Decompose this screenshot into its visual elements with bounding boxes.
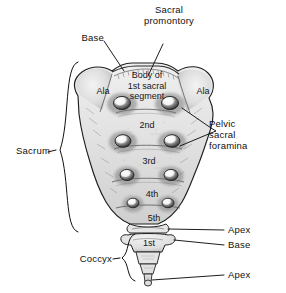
leader-apex-sacrum xyxy=(168,229,224,230)
segment-label-2nd: 2nd xyxy=(130,120,164,131)
label-sacrum: Sacrum xyxy=(2,145,50,156)
sacral-apex xyxy=(127,224,169,233)
leader-base-coccyx xyxy=(174,240,224,245)
label-base-coccyx: Base xyxy=(228,239,278,250)
anatomical-figure-sacrum-coccyx: Sacral promontory Base Pelvic sacral for… xyxy=(0,0,286,293)
leader-apex-coccyx xyxy=(152,275,224,280)
brace-coccyx-tip xyxy=(113,258,120,259)
label-coccyx: Coccyx xyxy=(58,253,112,264)
label-apex-sacrum: Apex xyxy=(228,224,278,235)
segment-label-3rd: 3rd xyxy=(132,156,166,167)
segment-label-coccygeal-1st: 1st xyxy=(135,238,163,249)
label-sacral-promontory: Sacral promontory xyxy=(128,4,210,26)
label-ala-left: Ala xyxy=(86,86,120,97)
label-pelvic-sacral-foramina: Pelvic sacral foramina xyxy=(209,118,279,151)
label-ala-right: Ala xyxy=(186,86,220,97)
leader-base-top xyxy=(104,41,124,71)
label-apex-coccyx: Apex xyxy=(228,269,278,280)
segment-label-4th: 4th xyxy=(135,189,169,200)
label-base-top: Base xyxy=(56,32,104,43)
segment-label-5th: 5th xyxy=(137,213,171,224)
label-body-first-sacral-segment: Body of 1st sacral segment xyxy=(116,70,178,102)
